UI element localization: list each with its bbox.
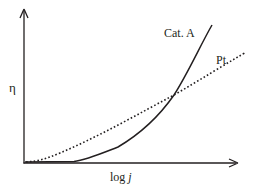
chart-canvas: η log j Cat. A Pt [0,0,266,186]
y-axis [20,9,28,164]
tafel-chart: η log j Cat. A Pt [0,0,266,186]
series-pt-line-end [243,52,246,54]
series-pt-label: Pt [216,53,227,67]
x-axis [24,159,239,167]
series-cat-a-label: Cat. A [164,26,195,40]
series-pt-line [26,54,243,162]
series-cat-a-line [25,25,212,162]
y-axis-label: η [9,80,16,95]
x-axis-label-prefix: log [110,170,128,184]
x-axis-label: log j [110,170,132,184]
